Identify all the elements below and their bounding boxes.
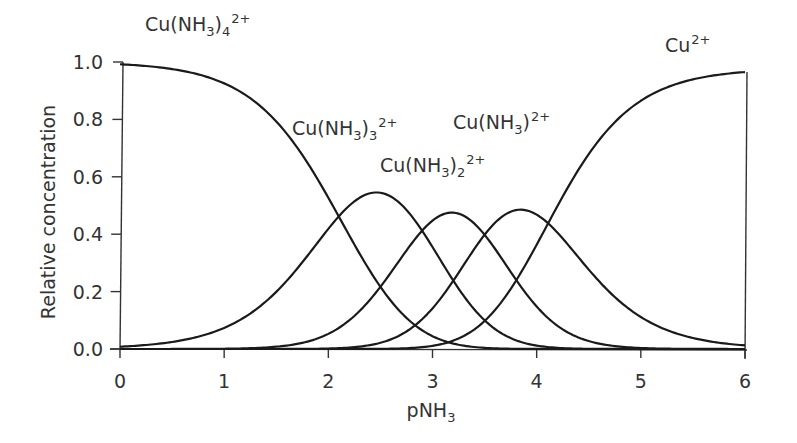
x-tick-label: 3 [426, 370, 438, 392]
series-curve-2-ammine [120, 213, 745, 349]
y-tick-label: 0.0 [73, 338, 103, 360]
y-tick-label: 0.4 [73, 223, 103, 245]
y-tick-label: 0.8 [73, 108, 103, 130]
y-axis-line [120, 62, 123, 350]
x-tick-label: 1 [218, 370, 230, 392]
x-tick-label: 6 [739, 370, 751, 392]
x-tick-label: 5 [635, 370, 647, 392]
right-axis-line [745, 72, 747, 359]
x-axis-title: pNH3 [407, 399, 456, 425]
y-tick-label: 1.0 [73, 51, 103, 73]
label-diammine: Cu(NH3)22+ [380, 152, 485, 180]
series-curve-3-ammine [120, 193, 745, 350]
x-tick-label: 0 [114, 370, 126, 392]
y-ticks: 0.00.20.40.60.81.0 [73, 51, 123, 360]
x-ticks: 0123456 [114, 349, 751, 392]
x-tick-label: 2 [322, 370, 334, 392]
x-tick-label: 4 [531, 370, 543, 392]
label-cu2plus: Cu2+ [665, 32, 710, 56]
label-tetraammine: Cu(NH3)42+ [145, 11, 250, 39]
series-curve-1-ammine [120, 210, 745, 349]
y-axis-title: Relative concentration [37, 105, 59, 319]
series-curve-4-ammine [120, 64, 745, 349]
label-triammine: Cu(NH3)32+ [292, 115, 397, 143]
y-tick-label: 0.2 [73, 281, 103, 303]
speciation-chart: 0.00.20.40.60.81.0 0123456 Cu(NH3)42+Cu(… [0, 0, 797, 443]
series-labels: Cu(NH3)42+Cu(NH3)32+Cu(NH3)2+Cu(NH3)22+C… [145, 11, 710, 180]
series-curves [120, 64, 745, 349]
y-tick-label: 0.6 [73, 166, 103, 188]
label-monoammine: Cu(NH3)2+ [453, 109, 550, 137]
